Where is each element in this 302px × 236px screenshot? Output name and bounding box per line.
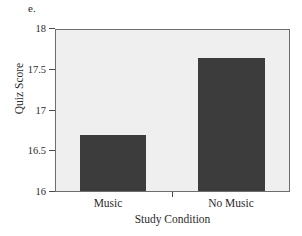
x-axis-tick-mark-center: [172, 192, 173, 197]
y-axis-tick-label-17: 17: [36, 105, 47, 117]
panel-letter: e.: [28, 2, 36, 14]
y-axis-tick-label-16-5: 16.5: [28, 145, 46, 157]
figure-container: e. Quiz Score 16 16.5 17 17.5 18 Music N…: [0, 0, 302, 236]
y-axis-tick-group: 16 16.5 17 17.5 18: [0, 29, 55, 192]
bar-music[interactable]: [80, 135, 146, 191]
y-axis-tick-label-16: 16: [36, 186, 47, 198]
plot-area: [55, 29, 290, 192]
x-axis-tick-label-no-music: No Music: [176, 196, 286, 210]
y-axis-tick-label-18: 18: [36, 23, 47, 35]
bar-no-music[interactable]: [198, 58, 265, 191]
x-axis-title: Study Condition: [55, 212, 290, 226]
x-axis-tick-label-music: Music: [58, 196, 158, 210]
y-axis-tick-label-17-5: 17.5: [28, 64, 46, 76]
